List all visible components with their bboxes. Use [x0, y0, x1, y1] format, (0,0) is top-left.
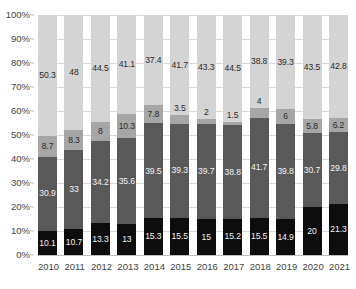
- x-axis-tick-label: 2011: [64, 258, 83, 278]
- bar-column[interactable]: 44.51.538.815.2: [223, 15, 242, 255]
- bar-segment[interactable]: 7.8: [144, 105, 163, 124]
- bar-segment-value-label: 15.5: [251, 232, 267, 241]
- bar-column[interactable]: 37.47.839.515.3: [144, 15, 163, 255]
- bar-segment[interactable]: 43.3: [197, 15, 216, 119]
- bar-column[interactable]: 43.3239.715: [197, 15, 216, 255]
- y-axis-tick-mark: [30, 183, 34, 184]
- bar-segment-value-label: 44.5: [225, 64, 241, 73]
- bar-segment[interactable]: 35.6: [117, 138, 136, 223]
- bar-segment[interactable]: 41.7: [250, 118, 269, 218]
- y-axis-tick-label: 60%: [11, 106, 30, 116]
- bar-segment-value-label: 4: [257, 97, 262, 106]
- bar-column[interactable]: 38.8441.715.5: [250, 15, 269, 255]
- bar-segment-value-label: 30.7: [304, 166, 320, 175]
- bar-series-group: 50.38.730.910.1488.33310.744.5834.213.34…: [38, 15, 348, 255]
- bar-segment[interactable]: 6: [276, 109, 295, 123]
- bar-segment-value-label: 2: [204, 108, 209, 117]
- bar-segment[interactable]: 50.3: [38, 15, 57, 136]
- bar-segment-value-label: 8.3: [68, 136, 80, 145]
- y-axis-tick-mark: [30, 255, 34, 256]
- bar-segment-value-label: 39.7: [198, 167, 214, 176]
- bar-segment[interactable]: 43.5: [303, 15, 322, 119]
- bar-segment[interactable]: 38.8: [223, 125, 242, 218]
- y-axis-tick-label: 100%: [6, 10, 30, 20]
- x-axis-tick-label: 2010: [38, 258, 57, 278]
- bar-segment-value-label: 30.9: [39, 189, 55, 198]
- y-axis-tick-label: 80%: [11, 58, 30, 68]
- bar-segment[interactable]: 29.8: [329, 132, 348, 203]
- bar-segment-value-label: 39.3: [277, 58, 293, 67]
- bar-segment-value-label: 43.3: [198, 63, 214, 72]
- bar-segment[interactable]: 13.3: [91, 223, 110, 255]
- y-axis-tick-mark: [30, 15, 34, 16]
- bar-column[interactable]: 42.86.229.821.3: [329, 15, 348, 255]
- bar-segment-value-label: 43.5: [304, 63, 320, 72]
- bar-segment-value-label: 34.2: [92, 178, 108, 187]
- bar-segment[interactable]: 37.4: [144, 15, 163, 105]
- bar-segment-value-label: 41.1: [119, 60, 135, 69]
- bar-column[interactable]: 39.3639.814.9: [276, 15, 295, 255]
- x-axis-tick-label: 2018: [250, 258, 269, 278]
- bar-segment[interactable]: 8: [91, 122, 110, 141]
- bar-segment[interactable]: 42.8: [329, 15, 348, 118]
- bar-segment[interactable]: 15.5: [170, 218, 189, 255]
- bar-segment[interactable]: 8.3: [64, 130, 83, 150]
- bar-segment-value-label: 7.8: [147, 110, 159, 119]
- bar-segment[interactable]: 15.3: [144, 218, 163, 255]
- bar-segment[interactable]: 39.8: [276, 124, 295, 220]
- bar-segment[interactable]: 39.5: [144, 123, 163, 218]
- bar-column[interactable]: 43.55.830.720: [303, 15, 322, 255]
- bar-segment[interactable]: 39.7: [197, 124, 216, 219]
- bar-segment-value-label: 37.4: [145, 56, 161, 65]
- y-axis-tick-mark: [30, 39, 34, 40]
- bar-segment[interactable]: 15.2: [223, 219, 242, 255]
- x-axis-tick-label: 2015: [170, 258, 189, 278]
- bar-segment[interactable]: 39.3: [170, 124, 189, 218]
- bar-segment[interactable]: 30.9: [38, 157, 57, 231]
- bar-segment-value-label: 41.7: [172, 61, 188, 70]
- bar-segment-value-label: 15.2: [225, 232, 241, 241]
- bar-segment[interactable]: 6.2: [329, 118, 348, 133]
- bar-segment[interactable]: 38.8: [250, 15, 269, 108]
- bar-segment[interactable]: 20: [303, 207, 322, 255]
- bar-segment[interactable]: 33: [64, 150, 83, 229]
- y-axis-tick-mark: [30, 231, 34, 232]
- bar-segment-value-label: 6: [283, 112, 288, 121]
- bar-column[interactable]: 44.5834.213.3: [91, 15, 110, 255]
- bar-segment[interactable]: 13: [117, 224, 136, 255]
- bar-segment[interactable]: 3.5: [170, 115, 189, 123]
- bar-column[interactable]: 41.73.539.315.5: [170, 15, 189, 255]
- bar-segment[interactable]: 15: [197, 219, 216, 255]
- bar-segment[interactable]: 21.3: [329, 204, 348, 255]
- bar-segment[interactable]: 8.7: [38, 136, 57, 157]
- bar-column[interactable]: 50.38.730.910.1: [38, 15, 57, 255]
- bar-segment[interactable]: 10.1: [38, 231, 57, 255]
- bar-segment[interactable]: 10.7: [64, 229, 83, 255]
- bar-segment-value-label: 10.3: [119, 122, 135, 131]
- bar-segment[interactable]: 14.9: [276, 219, 295, 255]
- bar-segment[interactable]: 10.3: [117, 114, 136, 139]
- y-axis-tick-label: 0%: [16, 250, 30, 260]
- bar-segment[interactable]: 4: [250, 108, 269, 118]
- bar-segment[interactable]: 48: [64, 15, 83, 130]
- bar-segment-value-label: 33: [69, 185, 78, 194]
- bar-segment[interactable]: 44.5: [91, 15, 110, 122]
- y-axis-tick-mark: [30, 159, 34, 160]
- bar-column[interactable]: 41.110.335.613: [117, 15, 136, 255]
- bar-segment[interactable]: 34.2: [91, 141, 110, 223]
- plot-area: 50.38.730.910.1488.33310.744.5834.213.34…: [38, 15, 348, 255]
- bar-segment[interactable]: 15.5: [250, 218, 269, 255]
- bar-segment[interactable]: 41.7: [170, 15, 189, 115]
- bar-segment[interactable]: 41.1: [117, 15, 136, 114]
- y-axis-tick-label: 50%: [11, 130, 30, 140]
- bar-segment-value-label: 39.5: [145, 167, 161, 176]
- y-axis-tick-label: 70%: [11, 82, 30, 92]
- x-axis-tick-label: 2014: [144, 258, 163, 278]
- bar-segment[interactable]: 44.5: [223, 15, 242, 122]
- bar-column[interactable]: 488.33310.7: [64, 15, 83, 255]
- bar-segment[interactable]: 30.7: [303, 133, 322, 207]
- bar-segment[interactable]: 39.3: [276, 15, 295, 109]
- bar-segment[interactable]: 5.8: [303, 119, 322, 133]
- bar-segment-value-label: 13.3: [92, 235, 108, 244]
- x-axis-tick-label: 2019: [276, 258, 295, 278]
